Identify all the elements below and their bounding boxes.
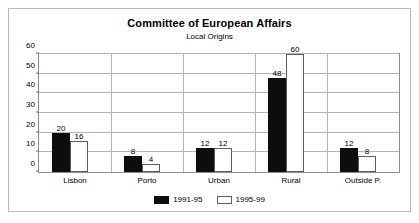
bar-value-label: 12: [219, 139, 228, 148]
y-axis-tick-label: 60: [26, 41, 35, 50]
bar-value-label: 12: [201, 139, 210, 148]
category-axis-label: Porto: [111, 176, 183, 185]
bar-value-label: 8: [365, 147, 369, 156]
bar-group: 2016Lisbon: [39, 54, 111, 172]
bar-value-label: 12: [345, 139, 354, 148]
legend-swatch: [154, 196, 169, 204]
bar[interactable]: 12: [196, 148, 214, 172]
chart-legend: 1991-951995-99: [9, 195, 410, 204]
bar[interactable]: 60: [286, 54, 304, 172]
bar-group: 84Porto: [111, 54, 183, 172]
bar[interactable]: 20: [52, 133, 70, 172]
bar-value-label: 48: [273, 69, 282, 78]
bar-value-label: 16: [75, 132, 84, 141]
y-axis-tick-label: 30: [26, 100, 35, 109]
category-axis-label: Urban: [183, 176, 255, 185]
bar[interactable]: 48: [268, 78, 286, 172]
chart-figure: Committee of European Affairs Local Orig…: [8, 8, 411, 212]
bar[interactable]: 12: [214, 148, 232, 172]
y-axis-tick-label: 10: [26, 139, 35, 148]
bar-group: 4860Rural: [255, 54, 327, 172]
bar[interactable]: 16: [70, 141, 88, 172]
category-axis-label: Rural: [255, 176, 327, 185]
bar-value-label: 20: [57, 124, 66, 133]
bar[interactable]: 12: [340, 148, 358, 172]
y-axis-tick-label: 50: [26, 60, 35, 69]
bar-group: 128Outside P.: [327, 54, 399, 172]
bar[interactable]: 8: [358, 156, 376, 172]
bar[interactable]: 4: [142, 164, 160, 172]
bar-value-label: 4: [149, 155, 153, 164]
chart-subtitle: Local Origins: [9, 32, 410, 41]
bar-value-label: 60: [291, 45, 300, 54]
category-axis-label: Lisbon: [39, 176, 111, 185]
y-axis-tick-label: 20: [26, 119, 35, 128]
legend-swatch: [217, 196, 232, 204]
bar[interactable]: 8: [124, 156, 142, 172]
chart-title: Committee of European Affairs: [9, 17, 410, 29]
legend-label: 1995-99: [236, 195, 265, 204]
legend-label: 1991-95: [173, 195, 202, 204]
category-axis-label: Outside P.: [327, 176, 399, 185]
legend-entry[interactable]: 1991-95: [154, 195, 202, 204]
plot-area: 0102030405060 2016Lisbon84Porto1212Urban…: [38, 53, 400, 173]
y-axis-tick-label: 0: [31, 159, 35, 168]
y-axis-tick-label: 40: [26, 80, 35, 89]
bar-group: 1212Urban: [183, 54, 255, 172]
legend-entry[interactable]: 1995-99: [217, 195, 265, 204]
bar-value-label: 8: [131, 147, 135, 156]
